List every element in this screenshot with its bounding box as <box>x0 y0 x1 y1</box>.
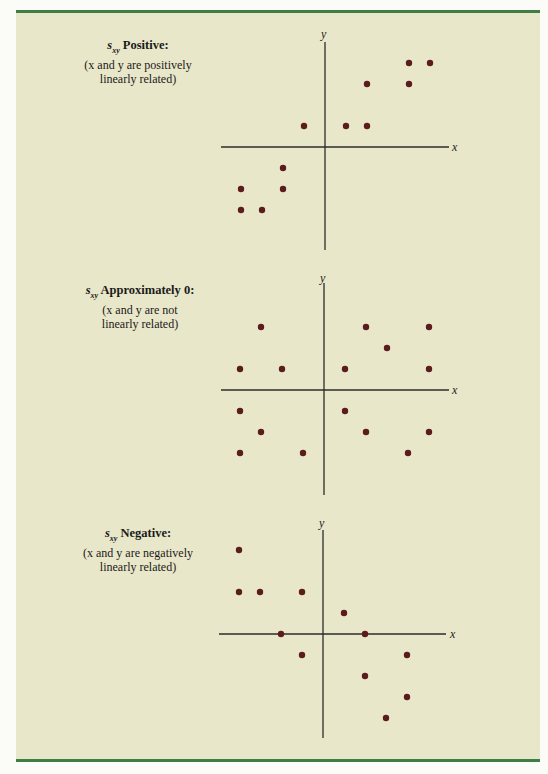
data-point <box>426 324 432 330</box>
data-point <box>363 324 369 330</box>
y-axis-label: y <box>320 27 327 41</box>
y-axis-label: y <box>319 271 326 285</box>
data-point <box>405 450 411 456</box>
data-point <box>363 429 369 435</box>
scatter-negative: x y <box>219 516 456 738</box>
data-point <box>301 123 307 129</box>
data-point <box>404 652 410 658</box>
y-axis-label: y <box>318 516 325 530</box>
data-point <box>406 60 412 66</box>
x-axis-label: x <box>451 383 458 397</box>
scatter-positive: x y <box>221 27 458 250</box>
data-point <box>404 694 410 700</box>
data-point <box>299 589 305 595</box>
data-point <box>236 547 242 553</box>
data-point <box>237 408 243 414</box>
x-axis-label: x <box>449 627 456 641</box>
data-point <box>427 60 433 66</box>
data-point <box>258 429 264 435</box>
data-point <box>342 408 348 414</box>
data-point <box>280 165 286 171</box>
data-point <box>383 715 389 721</box>
data-point <box>258 324 264 330</box>
data-point <box>280 186 286 192</box>
data-point <box>300 450 306 456</box>
scatter-approx-zero: x y <box>221 271 458 495</box>
scatter-plots: x y x y x y <box>0 0 548 774</box>
data-point <box>406 81 412 87</box>
x-axis-label: x <box>451 140 458 154</box>
data-point <box>237 450 243 456</box>
data-point <box>299 652 305 658</box>
data-point <box>236 589 242 595</box>
data-point <box>364 81 370 87</box>
data-point <box>259 207 265 213</box>
data-point <box>426 429 432 435</box>
data-point <box>257 589 263 595</box>
data-point <box>238 186 244 192</box>
data-point <box>362 673 368 679</box>
data-point <box>364 123 370 129</box>
data-point <box>237 366 243 372</box>
data-point <box>278 631 284 637</box>
data-point <box>426 366 432 372</box>
data-point <box>342 366 348 372</box>
data-point <box>238 207 244 213</box>
data-point <box>343 123 349 129</box>
data-point <box>362 631 368 637</box>
data-point <box>384 345 390 351</box>
data-point <box>279 366 285 372</box>
data-point <box>341 610 347 616</box>
